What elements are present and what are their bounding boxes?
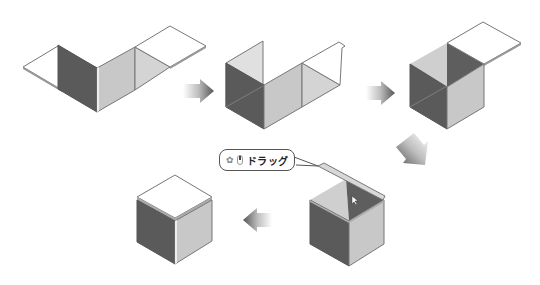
mouse-icon bbox=[237, 155, 243, 165]
arrow-right-icon bbox=[183, 79, 214, 103]
light-wall-face bbox=[97, 47, 135, 112]
light-wall-face bbox=[264, 63, 302, 129]
cube-folding-diagram bbox=[0, 0, 540, 285]
gear-hand-icon: ✿ bbox=[226, 156, 234, 165]
step-2-figure bbox=[226, 41, 345, 129]
step-4-figure bbox=[310, 163, 385, 266]
step-1-figure bbox=[23, 26, 206, 112]
arrow-down-left-icon bbox=[396, 133, 428, 165]
arrow-left-icon bbox=[243, 208, 272, 232]
step-3-figure bbox=[410, 22, 521, 129]
callout-leader bbox=[294, 157, 318, 166]
step-5-figure bbox=[137, 175, 212, 264]
callout-text: ドラッグ bbox=[247, 153, 289, 168]
drag-callout: ✿ ドラッグ bbox=[219, 149, 295, 171]
arrow-right-icon bbox=[366, 81, 395, 105]
dark-wall-face bbox=[58, 45, 97, 112]
